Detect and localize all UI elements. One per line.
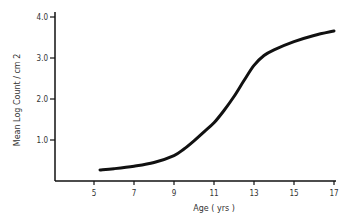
y-tick-label: 1.0: [37, 136, 49, 145]
x-tick-label: 7: [132, 189, 137, 198]
x-tick-label: 5: [92, 189, 97, 198]
x-tick-label: 9: [172, 189, 177, 198]
data-line: [100, 31, 334, 170]
y-tick-label: 4.0: [37, 13, 49, 22]
x-axis: 57911131517: [55, 181, 339, 198]
x-tick-label: 13: [249, 189, 258, 198]
y-tick-label: 3.0: [37, 54, 49, 63]
y-axis-label: Mean Log Count / cm 2: [13, 54, 22, 147]
y-tick-label: 2.0: [37, 95, 49, 104]
chart: 1.02.03.04.0 57911131517 Age ( yrs ) Mea…: [0, 0, 349, 224]
x-tick-label: 17: [329, 189, 338, 198]
y-axis: 1.02.03.04.0: [37, 12, 55, 181]
x-tick-label: 11: [209, 189, 218, 198]
x-axis-label: Age ( yrs ): [193, 204, 235, 213]
x-tick-label: 15: [289, 189, 298, 198]
